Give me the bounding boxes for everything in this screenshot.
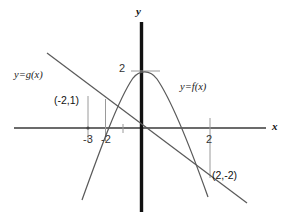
x-axis-label: x (272, 121, 278, 132)
tick-label-y-pos2: 2 (119, 63, 125, 74)
curve-label-f: y=f(x) (180, 82, 206, 93)
point-label-2-neg2: (2,-2) (212, 170, 237, 181)
graph-figure: y x y=g(x) y=f(x) 2 -3 -2 2 (-2,1) (2,-2… (0, 0, 291, 217)
point-marker-neg3 (86, 126, 89, 129)
tick-label-x-neg2: -2 (101, 134, 111, 145)
tick-label-x-neg3: -3 (83, 134, 93, 145)
graph-canvas (0, 0, 291, 217)
tick-label-x-pos2: 2 (206, 134, 212, 145)
point-label-neg2-1: (-2,1) (54, 95, 79, 106)
y-axis-label: y (136, 6, 141, 17)
curve-label-g: y=g(x) (14, 70, 43, 81)
